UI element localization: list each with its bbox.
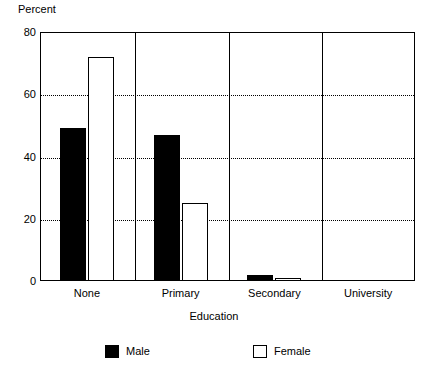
category-separator-2 [229,33,230,280]
gridline-40 [41,158,414,159]
gridline-60 [41,95,414,96]
x-tick-label-secondary: Secondary [248,286,301,300]
legend-item-female: Female [253,345,311,358]
legend-item-male: Male [105,345,150,358]
bar-chart: Percent 020406080 NonePrimarySecondaryUn… [0,0,428,370]
y-tick-label-0: 0 [2,276,36,287]
legend-swatch-female [253,345,267,358]
legend-label-male: Male [126,345,150,358]
legend-label-female: Female [274,345,311,358]
gridline-20 [41,220,414,221]
y-tick-label-20: 20 [2,213,36,224]
y-axis-tick-labels: 020406080 [0,32,36,281]
y-tick-label-60: 60 [2,89,36,100]
legend-swatch-male [105,345,119,358]
x-axis-tick-labels: NonePrimarySecondaryUniversity [40,286,415,302]
legend: Male Female [0,345,428,365]
y-axis-title: Percent [18,3,56,16]
x-axis-title: Education [0,310,428,323]
category-separator-3 [322,33,323,280]
plot-area [40,32,415,281]
x-tick-label-primary: Primary [162,286,200,300]
y-tick-label-80: 80 [2,27,36,38]
x-tick-label-none: None [74,286,100,300]
y-tick-label-40: 40 [2,151,36,162]
category-separator-1 [135,33,136,280]
x-tick-label-university: University [344,286,392,300]
